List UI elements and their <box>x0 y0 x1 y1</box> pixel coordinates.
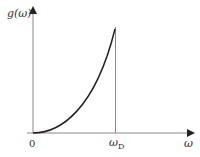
cutoff-label-main: ω <box>109 136 118 149</box>
x-axis-label: ω <box>184 137 193 150</box>
cutoff-label: ωD <box>109 136 124 151</box>
dos-diagram: g(ω) 0 ω ωD <box>0 0 200 157</box>
origin-label: 0 <box>29 138 35 149</box>
cutoff-label-sub: D <box>118 142 124 151</box>
y-axis-label: g(ω) <box>7 7 32 20</box>
dos-curve <box>33 29 115 133</box>
